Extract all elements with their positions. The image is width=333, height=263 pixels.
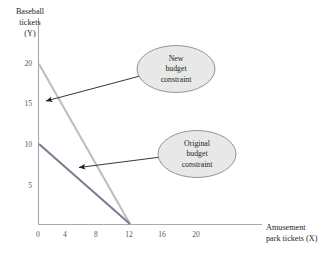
x-tick-label-8: 8	[86, 230, 106, 239]
y-axis-title: Baseball tickets (Y)	[2, 6, 58, 40]
x-tick-label-4: 4	[55, 230, 75, 239]
x-tick-label-0: 0	[28, 230, 48, 239]
x-axis-title: Amusement park tickets (X)	[266, 222, 332, 244]
new-callout-leader-line	[46, 76, 140, 101]
budget-constraint-chart: Baseball tickets (Y) Amusement park tick…	[0, 0, 333, 263]
x-tick-label-20: 20	[186, 230, 206, 239]
x-tick-label-16: 16	[152, 230, 172, 239]
x-tick-label-12: 12	[119, 230, 139, 239]
y-tick-label-10: 10	[12, 140, 32, 149]
y-tick-label-5: 5	[12, 181, 32, 190]
y-tick-label-15: 15	[12, 99, 32, 108]
new-budget-constraint-callout	[137, 46, 215, 93]
original-callout-leader-line	[79, 157, 161, 168]
original-budget-constraint-callout	[158, 131, 236, 178]
new-budget-constraint-line	[39, 64, 130, 224]
y-tick-label-20: 20	[12, 59, 32, 68]
original-budget-constraint-line	[39, 144, 130, 224]
